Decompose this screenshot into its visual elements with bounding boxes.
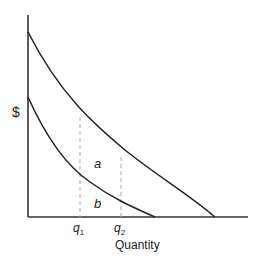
tick-q2-sub: 2: [121, 228, 125, 237]
region-a-label: a: [94, 156, 101, 171]
y-axis-label: $: [12, 104, 20, 120]
x-axis-label: Quantity: [115, 238, 160, 252]
upper-curve: [28, 32, 215, 217]
diagram: $ Quantity q1 q2 a b: [0, 0, 258, 265]
tick-q1: q1: [73, 221, 84, 237]
tick-q2-base: q: [114, 221, 121, 235]
region-b-label: b: [94, 196, 101, 211]
tick-q1-sub: 1: [80, 228, 84, 237]
tick-q1-base: q: [73, 221, 80, 235]
diagram-canvas: [0, 0, 258, 265]
lower-curve: [28, 97, 155, 217]
tick-q2: q2: [114, 221, 125, 237]
